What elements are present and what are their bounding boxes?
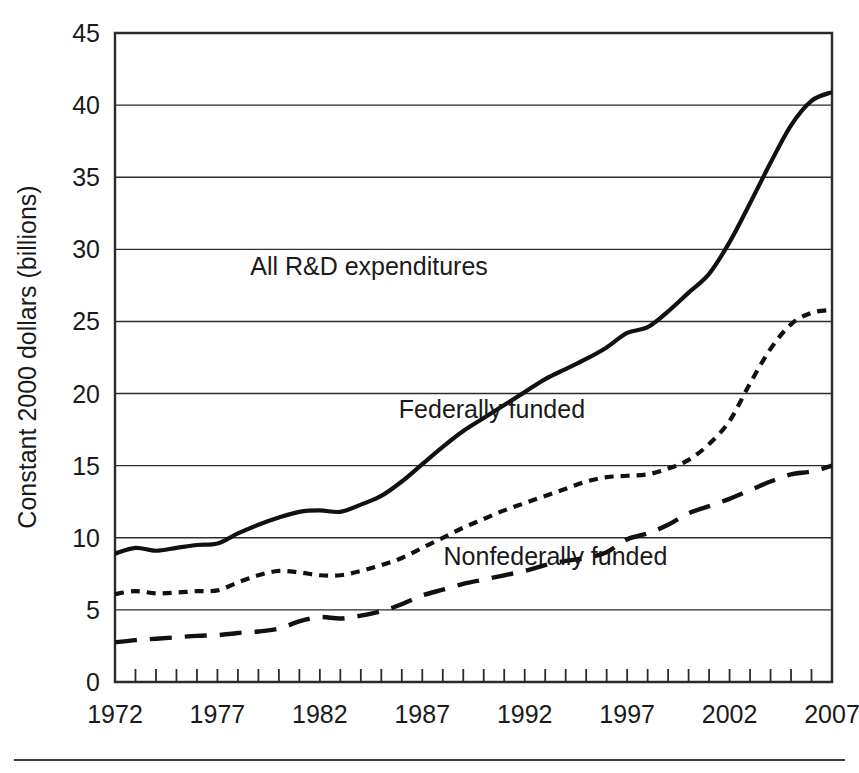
x-axis-tick-label: 1992: [497, 700, 553, 728]
x-axis-tick-label: 2007: [804, 700, 859, 728]
series-label: Federally funded: [399, 395, 585, 423]
x-axis-tick-label: 2002: [702, 700, 758, 728]
y-axis-tick-label: 20: [72, 380, 100, 408]
x-axis-tick-label: 1982: [292, 700, 348, 728]
x-axis-tick-label: 1972: [87, 700, 143, 728]
x-axis-tick-label: 1997: [599, 700, 655, 728]
x-axis-tick-label: 1977: [190, 700, 246, 728]
y-axis-tick-label: 10: [72, 524, 100, 552]
line-chart: Constant 2000 dollars (billions) 4540353…: [0, 0, 859, 773]
y-axis-tick-label: 25: [72, 307, 100, 335]
series-label: Nonfederally funded: [444, 542, 668, 570]
x-axis-tick-label: 1987: [394, 700, 450, 728]
series-label: All R&D expenditures: [250, 252, 488, 280]
y-axis-tick-label: 40: [72, 91, 100, 119]
y-axis-tick-label: 30: [72, 235, 100, 263]
y-axis-title: Constant 2000 dollars (billions): [13, 185, 41, 528]
y-axis-tick-label: 35: [72, 163, 100, 191]
y-axis-tick-label: 5: [86, 596, 100, 624]
y-axis-tick-label: 15: [72, 452, 100, 480]
chart-background: [0, 0, 859, 773]
y-axis-tick-label: 45: [72, 19, 100, 47]
y-axis-tick-label: 0: [86, 668, 100, 696]
chart-figure: Constant 2000 dollars (billions) 4540353…: [0, 0, 859, 773]
